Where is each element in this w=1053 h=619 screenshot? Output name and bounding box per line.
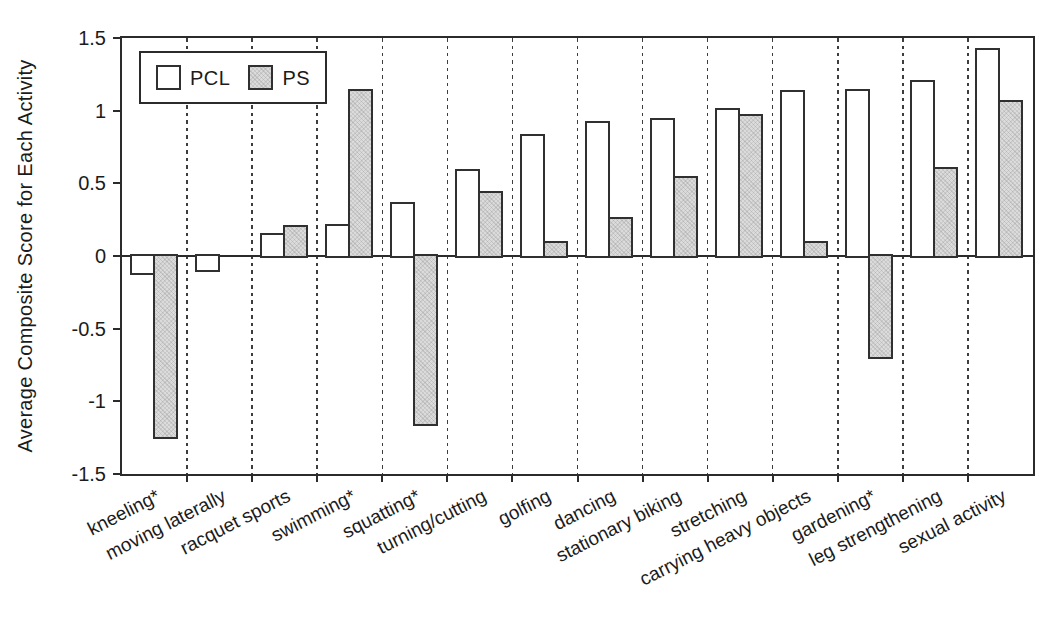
bar-ps-dancing bbox=[608, 217, 633, 258]
y-tick-label: 1 bbox=[30, 100, 106, 122]
bar-ps-carrying-heavy-objects bbox=[803, 241, 828, 258]
bar-ps-gardening bbox=[868, 254, 893, 359]
x-axis-tick bbox=[642, 476, 644, 482]
x-category-label-golfing: golfing bbox=[495, 486, 554, 529]
y-tick-label: -1 bbox=[30, 390, 106, 412]
x-axis-tick bbox=[251, 476, 253, 482]
bar-chart-figure: Average Composite Score for Each Activit… bbox=[0, 0, 1053, 619]
bar-ps-squatting bbox=[413, 254, 438, 426]
bar-ps-racquet-sports bbox=[283, 225, 308, 258]
legend: PCL PS bbox=[139, 51, 327, 104]
x-axis-tick bbox=[446, 476, 448, 482]
bar-ps-stationary-biking bbox=[673, 176, 698, 258]
x-axis-tick bbox=[316, 476, 318, 482]
y-tick-label: -1.5 bbox=[30, 463, 106, 485]
bar-ps-turning-cutting bbox=[478, 191, 503, 258]
bar-pcl-racquet-sports bbox=[260, 233, 285, 258]
bar-pcl-stationary-biking bbox=[650, 118, 675, 258]
bar-pcl-swimming bbox=[325, 224, 350, 258]
bar-ps-leg-strengthening bbox=[933, 167, 958, 258]
bar-pcl-kneeling bbox=[130, 254, 155, 275]
plot-area: PCL PS bbox=[120, 36, 1035, 476]
zero-baseline bbox=[122, 255, 1033, 257]
bar-pcl-moving-laterally bbox=[195, 254, 220, 272]
bar-pcl-sexual-activity bbox=[975, 48, 1000, 258]
bar-pcl-golfing bbox=[520, 134, 545, 258]
y-axis-tick bbox=[113, 37, 122, 39]
y-axis-tick bbox=[113, 473, 122, 475]
bar-pcl-gardening bbox=[845, 89, 870, 258]
y-tick-label: 1.5 bbox=[30, 27, 106, 49]
y-axis-tick bbox=[113, 182, 122, 184]
bar-pcl-squatting bbox=[390, 202, 415, 258]
y-axis-tick bbox=[113, 400, 122, 402]
bar-pcl-carrying-heavy-objects bbox=[780, 90, 805, 258]
bar-ps-swimming bbox=[348, 89, 373, 258]
x-axis-tick bbox=[902, 476, 904, 482]
x-axis-tick bbox=[186, 476, 188, 482]
y-tick-label: 0.5 bbox=[30, 172, 106, 194]
bar-pcl-dancing bbox=[585, 121, 610, 258]
y-axis-tick bbox=[113, 328, 122, 330]
legend-label-pcl: PCL bbox=[190, 67, 230, 89]
x-axis-tick bbox=[967, 476, 969, 482]
bar-pcl-stretching bbox=[715, 108, 740, 258]
bar-ps-sexual-activity bbox=[998, 100, 1023, 258]
bar-pcl-turning-cutting bbox=[455, 169, 480, 258]
x-axis-tick bbox=[577, 476, 579, 482]
x-axis-tick bbox=[772, 476, 774, 482]
x-axis-tick bbox=[511, 476, 513, 482]
legend-swatch-ps bbox=[248, 65, 273, 90]
y-axis-tick bbox=[113, 255, 122, 257]
bar-pcl-leg-strengthening bbox=[910, 80, 935, 258]
legend-swatch-pcl bbox=[156, 65, 181, 90]
bar-ps-kneeling bbox=[153, 254, 178, 439]
x-axis-tick bbox=[381, 476, 383, 482]
bar-ps-golfing bbox=[543, 241, 568, 258]
y-tick-label: -0.5 bbox=[30, 318, 106, 340]
y-axis-tick bbox=[113, 110, 122, 112]
x-axis-tick bbox=[837, 476, 839, 482]
y-tick-label: 0 bbox=[30, 245, 106, 267]
x-axis-tick bbox=[707, 476, 709, 482]
legend-label-ps: PS bbox=[282, 67, 310, 89]
bar-ps-stretching bbox=[738, 114, 763, 258]
